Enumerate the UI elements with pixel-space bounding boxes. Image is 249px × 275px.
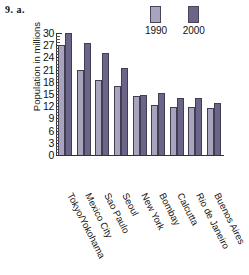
x-axis-spine	[56, 155, 224, 156]
bar-1990	[133, 96, 140, 155]
legend-swatch-icon-2000	[188, 6, 199, 23]
bar-group	[133, 33, 147, 155]
y-tick-label: 0	[48, 150, 54, 161]
bar-2000	[158, 93, 165, 155]
x-axis-tick-labels: Tokyo/YokohamaMexico CitySao PauloSeoulN…	[75, 191, 249, 275]
bar-1990	[95, 80, 102, 155]
bar-2000	[84, 43, 91, 155]
bar-group	[95, 33, 109, 155]
bar-1990	[114, 86, 121, 155]
y-tick-label: 30	[43, 28, 54, 39]
legend-entry-1990: 1990	[145, 6, 167, 36]
y-axis-tick-labels: 036912151821242730	[34, 33, 54, 155]
bar-1990	[170, 107, 177, 155]
legend-swatch-icon-1990	[150, 6, 161, 23]
bar-series-container	[57, 33, 222, 155]
bar-2000	[102, 53, 109, 155]
bar-group	[58, 33, 72, 155]
bar-group	[77, 33, 91, 155]
bar-2000	[140, 95, 147, 155]
bar-2000	[121, 68, 128, 155]
bar-2000	[177, 98, 184, 155]
bar-group	[170, 33, 184, 155]
y-tick-label: 27	[43, 40, 54, 51]
y-tick-label: 18	[43, 77, 54, 88]
y-tick-label: 24	[43, 52, 54, 63]
bar-group	[188, 33, 202, 155]
bar-2000	[195, 98, 202, 155]
bar-chart: Population in millions 03691215182124273…	[18, 33, 224, 178]
y-tick-label: 3	[48, 138, 54, 149]
legend-entry-2000: 2000	[183, 6, 205, 36]
bar-2000	[65, 33, 72, 155]
bar-1990	[58, 45, 65, 155]
bar-1990	[77, 70, 84, 155]
bar-2000	[214, 103, 221, 155]
y-tick-label: 6	[48, 125, 54, 136]
y-tick-label: 15	[43, 89, 54, 100]
chart-legend: 1990 2000	[145, 6, 205, 36]
bar-group	[114, 33, 128, 155]
bar-1990	[151, 105, 158, 155]
y-tick-label: 9	[48, 113, 54, 124]
bar-1990	[188, 107, 195, 155]
plot-area	[57, 33, 224, 155]
y-tick-label: 12	[43, 101, 54, 112]
bar-group	[151, 33, 165, 155]
y-tick-label: 21	[43, 64, 54, 75]
problem-label: 9. a.	[5, 4, 25, 15]
bar-group	[207, 33, 221, 155]
bar-1990	[207, 108, 214, 155]
